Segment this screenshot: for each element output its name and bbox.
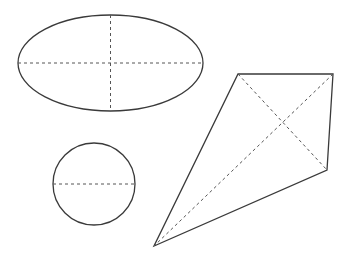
circle-shape <box>53 143 135 225</box>
quadrilateral-diagonal-ac <box>238 74 327 170</box>
quadrilateral-diagonal-bd <box>154 74 333 246</box>
diagram-canvas <box>0 0 344 259</box>
quadrilateral-shape <box>154 74 333 246</box>
ellipse-shape <box>18 15 203 111</box>
